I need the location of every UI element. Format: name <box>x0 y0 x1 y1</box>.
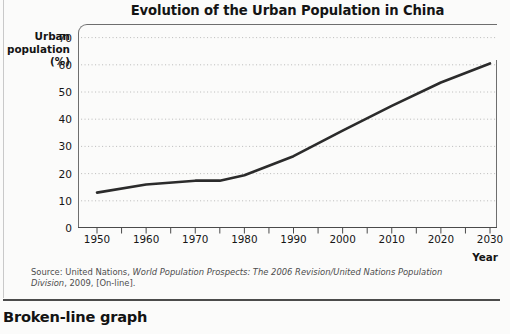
chart-title: Evolution of the Urban Population in Chi… <box>78 3 497 18</box>
y-tick-label-50: 50 <box>46 86 72 98</box>
bottom-divider <box>3 299 500 301</box>
x-tick-label-2000: 2000 <box>320 233 366 245</box>
x-tick-label-2020: 2020 <box>418 233 464 245</box>
source-prefix: Source: United Nations, <box>31 267 133 277</box>
y-tick-label-70: 70 <box>46 32 72 44</box>
y-tick-label-10: 10 <box>46 195 72 207</box>
x-tick-label-1970: 1970 <box>172 233 218 245</box>
plot-area <box>78 24 497 228</box>
x-tick-label-1950: 1950 <box>74 233 120 245</box>
source-suffix: , 2009, [On-line]. <box>64 278 135 288</box>
data-line-urban-population <box>97 63 490 192</box>
y-axis-title-line-2: population <box>6 43 70 56</box>
figure-broken-line-graph: Evolution of the Urban Population in Chi… <box>0 0 510 334</box>
x-tick-label-2030: 2030 <box>467 233 510 245</box>
y-tick-label-0: 0 <box>46 222 72 234</box>
source-note: Source: United Nations, World Population… <box>31 267 461 289</box>
y-tick-label-20: 20 <box>46 168 72 180</box>
figure-caption: Broken-line graph <box>3 308 147 325</box>
y-tick-label-30: 30 <box>46 140 72 152</box>
data-series-layer <box>78 24 497 228</box>
x-tick-label-1980: 1980 <box>221 233 267 245</box>
x-axis-title: Year <box>472 251 498 263</box>
x-tick-label-2010: 2010 <box>369 233 415 245</box>
page-left-rule <box>3 0 4 298</box>
y-tick-label-40: 40 <box>46 113 72 125</box>
x-tick-label-1990: 1990 <box>271 233 317 245</box>
y-tick-label-60: 60 <box>46 59 72 71</box>
x-tick-label-1960: 1960 <box>123 233 169 245</box>
